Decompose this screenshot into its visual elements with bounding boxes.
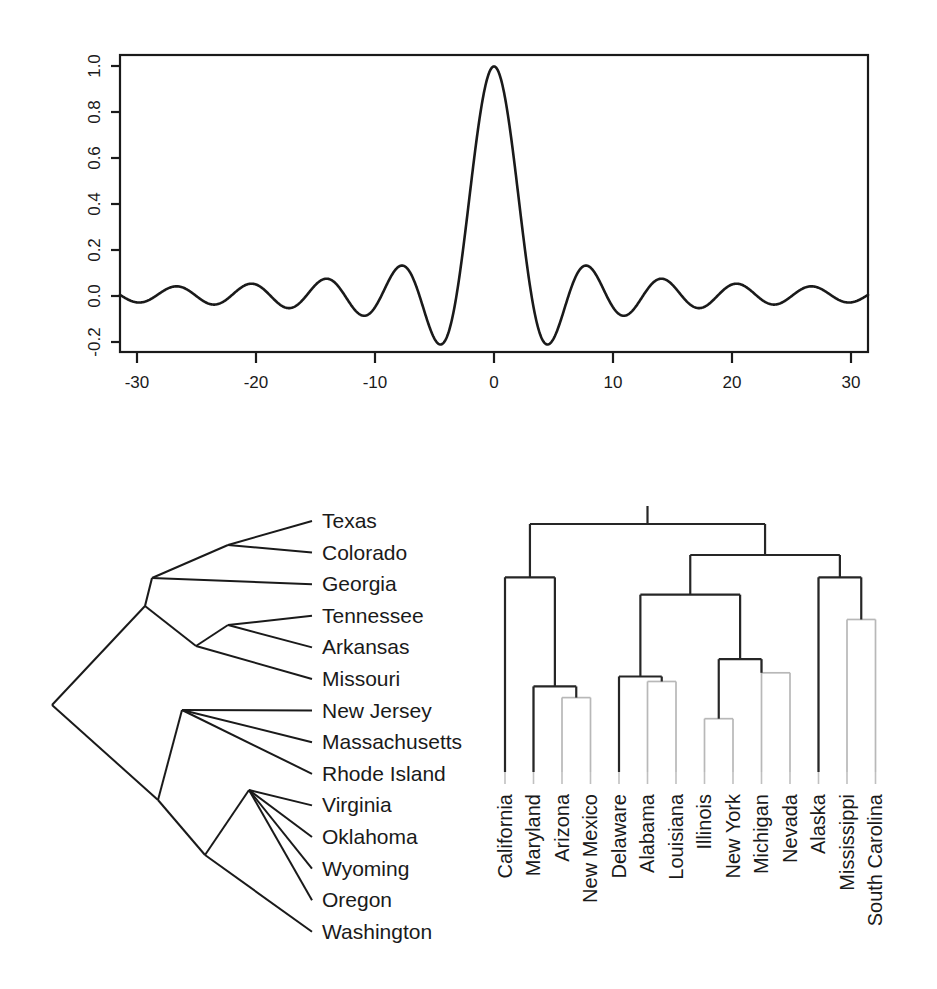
- dendrogram-leaf-label: Alaska: [807, 793, 829, 854]
- figure-panel: 1.0 0.8 0.6 0.4 0.2 0.0 -0.2 -30 -20 -10…: [0, 0, 937, 989]
- phylogram-edge: [145, 578, 152, 606]
- phylogram-tree: TexasColoradoGeorgiaTennesseeArkansasMis…: [52, 509, 462, 943]
- phylogram-edge: [158, 710, 182, 800]
- y-tick-label: 0.2: [85, 238, 104, 262]
- phylogram-leaf-label: Arkansas: [322, 635, 410, 658]
- dendrogram-leaf-label: Illinois: [693, 794, 715, 850]
- dendrogram-leaf-label: California: [494, 793, 516, 878]
- phylogram-edge: [182, 710, 312, 742]
- y-tick-label: 0.4: [85, 192, 104, 216]
- dendrogram-leaf-label: South Carolina: [864, 793, 886, 926]
- dendrogram-leaf-label: Nevada: [779, 793, 801, 863]
- y-tick-label: -0.2: [85, 327, 104, 356]
- dendrogram-leaf-label: New Mexico: [579, 794, 601, 903]
- x-tick-label: 10: [604, 373, 623, 392]
- dendrogram-leaf-label: New York: [722, 793, 744, 878]
- phylogram-leaf-label: New Jersey: [322, 699, 432, 722]
- phylogram-edge: [52, 705, 158, 800]
- phylogram-labels: TexasColoradoGeorgiaTennesseeArkansasMis…: [322, 509, 462, 943]
- x-axis-labels: -30 -20 -10 0 10 20 30: [125, 373, 861, 392]
- phylogram-leaf-label: Washington: [322, 920, 432, 943]
- x-tick-label: 0: [489, 373, 498, 392]
- dendrogram-labels: CaliforniaMarylandArizonaNew MexicoDelaw…: [494, 793, 887, 926]
- phylogram-edge: [145, 606, 196, 646]
- y-tick-label: 1.0: [85, 54, 104, 78]
- dendrogram-merge-links: [505, 506, 861, 772]
- phylogram-edge: [196, 625, 228, 646]
- x-tick-label: 30: [842, 373, 861, 392]
- phylogram-edge: [228, 521, 312, 545]
- phylogram-edge: [152, 545, 228, 578]
- phylogram-edge: [205, 790, 249, 855]
- phylogram-leaf-label: Wyoming: [322, 857, 409, 880]
- x-tick-label: -30: [125, 373, 150, 392]
- dendrogram-axis-ticks: [505, 772, 876, 784]
- phylogram-edge: [182, 710, 312, 711]
- dendrogram-leaf-label: Mississippi: [836, 794, 858, 891]
- figure-svg: 1.0 0.8 0.6 0.4 0.2 0.0 -0.2 -30 -20 -10…: [0, 0, 937, 989]
- phylogram-leaf-label: Oklahoma: [322, 825, 418, 848]
- dendrogram-leaf-label: Arizona: [551, 793, 573, 862]
- sinc-curve: [120, 66, 868, 344]
- x-axis-ticks: [137, 352, 851, 363]
- phylogram-edge: [249, 790, 312, 900]
- phylogram-leaf-label: Texas: [322, 509, 377, 532]
- phylogram-edge: [205, 855, 312, 932]
- dendrogram-leaf-label: Delaware: [608, 794, 630, 878]
- y-axis-labels: 1.0 0.8 0.6 0.4 0.2 0.0 -0.2: [85, 54, 104, 356]
- dendrogram-leaf-label: Alabama: [636, 793, 658, 873]
- dendrogram-leaf-label: Michigan: [750, 794, 772, 874]
- phylogram-leaf-label: Massachusetts: [322, 730, 462, 753]
- phylogram-edges: [52, 521, 312, 932]
- x-tick-label: -20: [244, 373, 269, 392]
- phylogram-edge: [152, 578, 312, 584]
- y-tick-label: 0.8: [85, 100, 104, 124]
- y-tick-label: 0.6: [85, 146, 104, 170]
- phylogram-leaf-label: Oregon: [322, 888, 392, 911]
- x-tick-label: 20: [723, 373, 742, 392]
- sinc-plot: 1.0 0.8 0.6 0.4 0.2 0.0 -0.2 -30 -20 -10…: [85, 54, 868, 392]
- y-tick-label: 0.0: [85, 284, 104, 308]
- dendrogram-leaf-stems: [505, 577, 876, 772]
- phylogram-leaf-label: Colorado: [322, 541, 407, 564]
- phylogram-edge: [158, 800, 205, 855]
- phylogram-edge: [228, 625, 312, 647]
- phylogram-leaf-label: Virginia: [322, 793, 392, 816]
- phylogram-edge: [228, 545, 312, 553]
- plot-box: [120, 55, 868, 352]
- phylogram-leaf-label: Rhode Island: [322, 762, 446, 785]
- phylogram-leaf-label: Missouri: [322, 667, 400, 690]
- phylogram-edge: [196, 646, 312, 679]
- dendrogram-leaf-label: Maryland: [522, 794, 544, 876]
- phylogram-edge: [182, 710, 312, 774]
- x-tick-label: -10: [363, 373, 388, 392]
- phylogram-leaf-label: Tennessee: [322, 604, 424, 627]
- dendrogram: CaliforniaMarylandArizonaNew MexicoDelaw…: [494, 506, 887, 926]
- phylogram-edge: [52, 606, 145, 705]
- dendrogram-leaf-label: Louisiana: [665, 793, 687, 880]
- y-axis-ticks: [111, 66, 120, 342]
- phylogram-leaf-label: Georgia: [322, 572, 397, 595]
- phylogram-edge: [228, 616, 312, 625]
